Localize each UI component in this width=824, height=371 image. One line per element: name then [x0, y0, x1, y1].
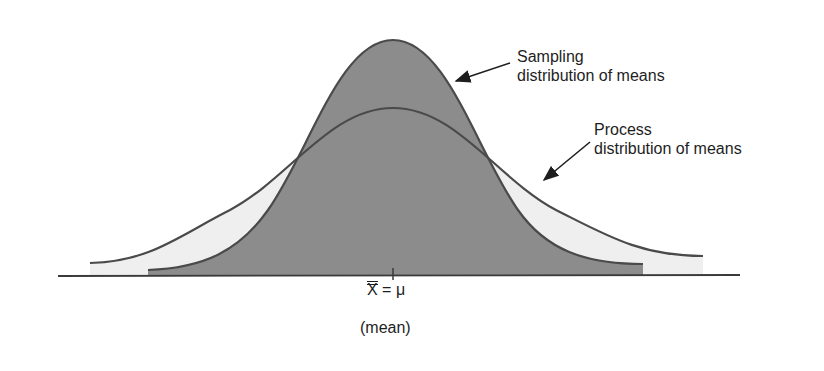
process-distribution-label: Process distribution of means	[594, 120, 742, 158]
distribution-diagram: Sampling distribution of means Process d…	[0, 0, 824, 371]
mean-caption: (mean)	[360, 318, 411, 337]
sampling-distribution-label: Sampling distribution of means	[517, 47, 665, 85]
grand-mean-equals-mu-label: X = μ	[367, 280, 405, 299]
x-double-bar-symbol: X	[367, 280, 378, 299]
process-arrow-icon	[544, 142, 590, 180]
sampling-label-line1: Sampling	[517, 47, 665, 66]
equals-mu-text: = μ	[378, 281, 405, 298]
process-label-line2: distribution of means	[594, 139, 742, 158]
process-label-line1: Process	[594, 120, 742, 139]
distribution-plot	[0, 0, 824, 371]
sampling-label-line2: distribution of means	[517, 66, 665, 85]
x-axis-baseline	[58, 275, 740, 276]
sampling-arrow-icon	[456, 63, 510, 81]
